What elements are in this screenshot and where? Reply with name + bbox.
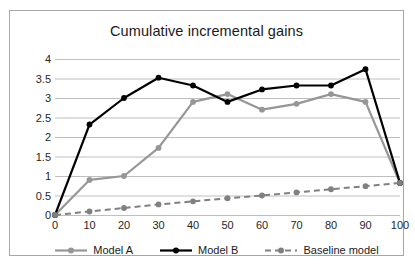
data-point	[156, 202, 162, 208]
data-point	[294, 101, 300, 107]
data-point	[363, 183, 369, 189]
data-point	[52, 212, 58, 218]
data-point	[294, 83, 300, 89]
x-tick-label: 80	[325, 219, 337, 231]
plot-area	[55, 59, 400, 215]
x-tick-label: 90	[359, 219, 371, 231]
data-point	[259, 87, 265, 93]
series-line-model-b	[55, 69, 400, 215]
chart-legend: Model AModel BBaseline model	[19, 241, 414, 259]
y-tick-label: 2.5	[36, 112, 51, 124]
legend-item-baseline-model[interactable]: Baseline model	[264, 244, 378, 256]
data-point	[328, 91, 334, 97]
data-point	[190, 198, 196, 204]
data-point	[363, 66, 369, 72]
x-axis-tick-labels: 0102030405060708090100	[55, 219, 400, 235]
y-tick-label: 0	[45, 209, 51, 221]
data-point	[259, 107, 265, 113]
data-point	[259, 193, 265, 199]
x-tick-label: 100	[391, 219, 409, 231]
data-point	[363, 99, 369, 105]
data-point	[190, 83, 196, 89]
x-tick-label: 0	[52, 219, 58, 231]
y-tick-label: 3.5	[36, 73, 51, 85]
data-point	[225, 91, 231, 97]
legend-label: Baseline model	[303, 244, 378, 256]
x-tick-label: 60	[256, 219, 268, 231]
y-tick-label: 1	[45, 170, 51, 182]
data-point	[87, 177, 93, 183]
y-tick-label: 3	[45, 92, 51, 104]
y-tick-label: 0.5	[36, 190, 51, 202]
legend-item-model-a[interactable]: Model A	[54, 244, 133, 256]
data-point	[156, 75, 162, 81]
y-axis-tick-labels: 00.511.522.533.54	[24, 59, 51, 215]
data-point	[225, 99, 231, 105]
y-tick-label: 1.5	[36, 151, 51, 163]
legend-label: Model A	[93, 244, 133, 256]
data-point	[225, 195, 231, 201]
x-tick-label: 70	[290, 219, 302, 231]
plot-svg	[55, 59, 400, 215]
data-point	[87, 209, 93, 215]
legend-swatch-solid	[159, 245, 193, 256]
x-tick-label: 50	[221, 219, 233, 231]
data-point	[87, 122, 93, 128]
y-tick-label: 2	[45, 131, 51, 143]
legend-swatch-dashed	[264, 245, 298, 256]
legend-label: Model B	[198, 244, 238, 256]
chart-screenshot: Cumulative incremental gains 00.511.522.…	[0, 0, 415, 267]
chart-frame: Cumulative incremental gains 00.511.522.…	[9, 10, 404, 256]
x-tick-label: 30	[152, 219, 164, 231]
data-point	[121, 205, 127, 211]
legend-swatch-solid	[54, 245, 88, 256]
data-point	[121, 95, 127, 101]
legend-item-model-b[interactable]: Model B	[159, 244, 238, 256]
x-tick-label: 20	[118, 219, 130, 231]
x-tick-label: 10	[83, 219, 95, 231]
data-point	[397, 180, 403, 186]
data-point	[328, 83, 334, 89]
data-point	[190, 99, 196, 105]
data-point	[156, 145, 162, 151]
y-tick-label: 4	[45, 53, 51, 65]
data-point	[294, 189, 300, 195]
data-point	[328, 186, 334, 192]
chart-title: Cumulative incremental gains	[10, 23, 403, 39]
x-tick-label: 40	[187, 219, 199, 231]
data-point	[121, 173, 127, 179]
